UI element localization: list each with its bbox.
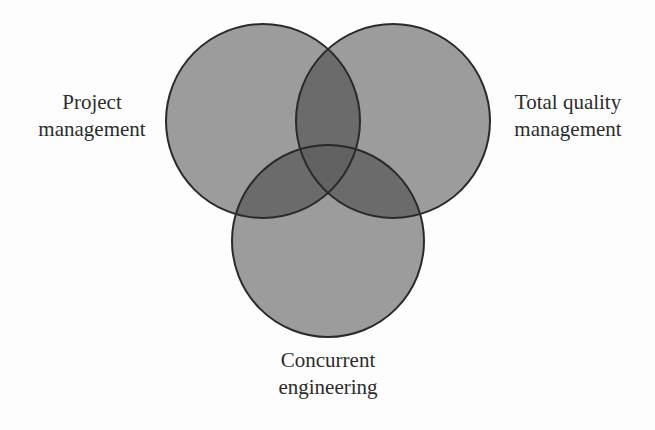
venn-diagram: Project management Total quality managem… bbox=[0, 0, 655, 430]
label-project-management: Project management bbox=[22, 89, 162, 143]
label-concurrent-engineering: Concurrent engineering bbox=[256, 347, 400, 401]
label-line-2: engineering bbox=[256, 374, 400, 401]
label-line-1: Project bbox=[22, 89, 162, 116]
label-line-2: management bbox=[498, 116, 638, 143]
label-line-2: management bbox=[22, 116, 162, 143]
label-line-1: Total quality bbox=[498, 89, 638, 116]
label-total-quality-management: Total quality management bbox=[498, 89, 638, 143]
label-line-1: Concurrent bbox=[256, 347, 400, 374]
